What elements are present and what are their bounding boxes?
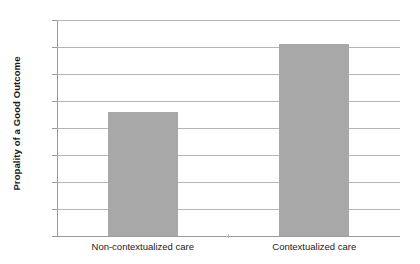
y-tick-0 (52, 236, 57, 237)
y-tick-40 (52, 128, 57, 129)
y-tick-80 (52, 20, 57, 21)
y-tick-50 (52, 101, 57, 102)
gridline-80 (57, 20, 400, 21)
y-tick-70 (52, 47, 57, 48)
y-axis-title: Propality of a Good Outcome (11, 24, 22, 224)
x-category-label-0: Non-contextualized care (92, 241, 194, 252)
bar-1[interactable] (279, 44, 349, 236)
y-tick-20 (52, 182, 57, 183)
bar-0[interactable] (108, 112, 178, 236)
x-axis-center-tick (228, 234, 229, 238)
y-tick-10 (52, 209, 57, 210)
bar-chart: Propality of a Good Outcome 80%70%60%50%… (0, 0, 420, 264)
y-tick-60 (52, 74, 57, 75)
x-category-label-1: Contextualized care (272, 241, 356, 252)
y-tick-30 (52, 155, 57, 156)
plot-area: 80%70%60%50%40%30%20%10%0% (57, 20, 400, 236)
